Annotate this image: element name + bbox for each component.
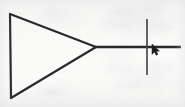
triangle-left-edge [10,14,11,98]
drawing-layer [0,0,185,107]
mouse-cursor-icon [152,44,159,55]
triangle-shape [10,14,96,98]
sketch-canvas: Hand-drawn triangle pointing right with … [0,0,185,107]
